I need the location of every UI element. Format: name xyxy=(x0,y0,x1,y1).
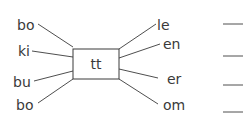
connector-left-2 xyxy=(32,51,73,57)
prefix-4: bo xyxy=(16,97,33,113)
connector-left-4 xyxy=(38,79,73,103)
prefix-1: bo xyxy=(17,17,34,33)
connector-right-1 xyxy=(119,24,156,49)
center-label: tt xyxy=(91,56,102,72)
connector-left-1 xyxy=(38,24,73,47)
connector-right-3 xyxy=(119,69,158,78)
prefix-2: ki xyxy=(18,43,30,59)
suffix-1: le xyxy=(157,17,170,33)
suffix-4: om xyxy=(163,97,185,113)
connector-right-4 xyxy=(119,79,158,104)
word-building-diagram: tt bo ki bu bo le en er om xyxy=(0,0,243,120)
connector-right-2 xyxy=(119,44,160,58)
connector-left-3 xyxy=(34,71,73,81)
prefix-3: bu xyxy=(13,74,31,90)
suffix-3: er xyxy=(167,71,182,87)
suffix-2: en xyxy=(163,36,181,52)
